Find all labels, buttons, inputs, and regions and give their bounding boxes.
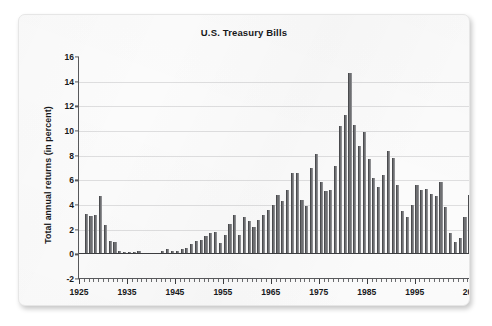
x-axis-tick-mark <box>146 279 147 282</box>
x-axis-tick-mark <box>161 279 162 282</box>
x-axis-tick-mark <box>395 279 396 282</box>
bar <box>94 215 97 254</box>
bar <box>262 215 265 254</box>
x-axis-tick-mark <box>170 279 171 282</box>
bar <box>85 214 88 255</box>
y-axis-tick-label: 12 <box>65 101 74 111</box>
x-axis-tick-mark <box>434 279 435 282</box>
x-axis-tick-mark <box>232 279 233 282</box>
x-axis-tick-mark <box>352 279 353 282</box>
x-axis-tick-mark <box>338 279 339 282</box>
x-axis-tick-mark <box>199 279 200 282</box>
bar <box>444 207 447 254</box>
x-axis-tick-mark <box>194 279 195 282</box>
x-axis-major-tick-mark <box>367 279 368 284</box>
x-axis-tick-mark <box>204 279 205 282</box>
x-axis-tick-mark <box>98 279 99 282</box>
bar <box>353 125 356 255</box>
bar <box>382 175 385 254</box>
x-axis-tick-label: 1975 <box>309 287 328 297</box>
x-axis-tick-mark <box>266 279 267 282</box>
x-axis-tick-mark <box>309 279 310 282</box>
y-axis-tick-label: 0 <box>69 249 74 259</box>
x-axis-tick-mark <box>237 279 238 282</box>
bar <box>459 238 462 254</box>
bar <box>267 210 270 254</box>
bar <box>334 166 337 255</box>
bar <box>363 132 366 254</box>
bar <box>300 200 303 254</box>
y-axis-tick-label: 8 <box>69 151 74 161</box>
bar <box>99 196 102 254</box>
x-axis-tick-mark <box>208 279 209 282</box>
x-axis-major-tick-mark <box>319 279 320 284</box>
x-axis-tick-mark <box>213 279 214 282</box>
x-axis-tick-label: 1985 <box>357 287 376 297</box>
bar <box>406 217 409 254</box>
bar <box>324 191 327 254</box>
x-axis-line <box>79 278 470 279</box>
y-axis-title-label: Total annual returns (in percent) <box>43 106 53 244</box>
y-axis-tick-label: 10 <box>65 126 74 136</box>
x-axis-tick-mark <box>122 279 123 282</box>
bar <box>89 216 92 254</box>
bar <box>377 187 380 255</box>
bar <box>296 173 299 254</box>
bar <box>281 201 284 254</box>
bar <box>104 225 107 255</box>
bar <box>420 190 423 254</box>
bar <box>439 182 442 255</box>
x-axis-tick-mark <box>113 279 114 282</box>
x-axis-tick-mark <box>463 279 464 282</box>
x-axis-tick-mark <box>376 279 377 282</box>
bar <box>109 241 112 255</box>
bar <box>411 205 414 254</box>
bar <box>228 224 231 255</box>
bars-layer <box>79 57 470 254</box>
x-axis-tick-mark <box>448 279 449 282</box>
x-axis-tick-mark <box>419 279 420 282</box>
x-axis-tick-mark <box>343 279 344 282</box>
x-axis-title: Year-end <box>19 304 469 306</box>
x-axis-tick-label: 1955 <box>213 287 232 297</box>
x-axis-tick-mark <box>357 279 358 282</box>
x-axis-tick-mark <box>362 279 363 282</box>
x-axis-tick-label: 1935 <box>117 287 136 297</box>
bar <box>272 205 275 254</box>
bar <box>372 178 375 254</box>
x-axis-tick-label: 1925 <box>70 287 89 297</box>
bar <box>233 215 236 254</box>
x-axis-major-tick-mark <box>79 279 80 284</box>
bar <box>329 190 332 254</box>
bar <box>463 217 466 254</box>
x-axis-tick-mark <box>137 279 138 282</box>
bar <box>238 235 241 255</box>
bar <box>339 126 342 254</box>
chart-title: U.S. Treasury Bills <box>19 27 469 38</box>
x-axis-major-tick-mark <box>175 279 176 284</box>
bar <box>224 235 227 255</box>
x-axis-tick-mark <box>285 279 286 282</box>
x-axis-major-tick-mark <box>127 279 128 284</box>
x-axis-tick-mark <box>276 279 277 282</box>
bar <box>392 158 395 254</box>
x-axis-tick-mark <box>84 279 85 282</box>
x-axis-tick-mark <box>165 279 166 282</box>
x-axis-tick-mark <box>180 279 181 282</box>
zero-line <box>79 253 470 254</box>
bar <box>468 195 470 254</box>
x-axis-tick-mark <box>218 279 219 282</box>
x-axis-tick-mark <box>295 279 296 282</box>
x-axis-tick-mark <box>372 279 373 282</box>
bar <box>286 190 289 254</box>
bar <box>358 146 361 255</box>
x-axis-tick-mark <box>324 279 325 282</box>
bar <box>243 217 246 254</box>
bar <box>315 154 318 254</box>
x-axis-tick-label: 1965 <box>261 287 280 297</box>
x-axis-major-tick-mark <box>415 279 416 284</box>
x-axis-tick-mark <box>89 279 90 282</box>
y-axis-tick-label: 16 <box>65 52 74 62</box>
y-axis-tick-label: 6 <box>69 175 74 185</box>
x-axis-tick-mark <box>467 279 468 282</box>
